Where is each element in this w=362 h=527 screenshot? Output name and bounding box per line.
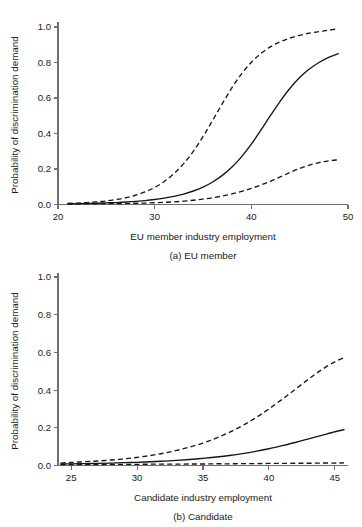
y-axis-tick-label: 0.2	[38, 422, 51, 433]
x-axis-tick-label: 30	[132, 472, 143, 483]
y-axis-tick-label: 0.0	[38, 460, 51, 471]
y-axis-tick-label: 0.2	[38, 163, 51, 174]
x-axis-tick-label: 40	[246, 211, 257, 222]
y-axis-tick-label: 0.6	[38, 92, 51, 103]
figure-footnote	[0, 513, 362, 527]
axis-spines	[58, 273, 348, 466]
x-axis-tick-label: 40	[264, 472, 275, 483]
y-axis-tick-label: 0.4	[38, 128, 52, 139]
x-axis-tick-label: 20	[53, 211, 64, 222]
y-axis-tick-label: 1.0	[38, 21, 51, 32]
confidence-bound-curve	[61, 358, 344, 463]
chart-panel-a: 0.00.20.40.60.81.020304050EU member indu…	[0, 0, 362, 264]
y-axis-tick-label: 0.8	[38, 57, 51, 68]
y-axis-tick-label: 0.4	[38, 385, 52, 396]
prediction-curve	[68, 54, 339, 204]
figure-container: 0.00.20.40.60.81.020304050EU member indu…	[0, 0, 362, 527]
panel-subcaption: (a) EU member	[170, 250, 238, 261]
x-axis-title: Candidate industry employment	[134, 492, 272, 503]
chart-panel-b: 0.00.20.40.60.81.02530354045Candidate in…	[0, 263, 362, 527]
x-axis-tick-label: 45	[329, 472, 340, 483]
y-axis-title: Probability of discrimination demand	[9, 36, 20, 193]
plot-area-b: 0.00.20.40.60.81.02530354045Candidate in…	[0, 263, 362, 527]
confidence-bound-curve	[68, 29, 339, 204]
x-axis-tick-label: 30	[149, 211, 160, 222]
y-axis-tick-label: 0.8	[38, 309, 51, 320]
prediction-curve	[61, 430, 344, 464]
axis-spines	[58, 22, 348, 205]
confidence-bound-curve	[68, 160, 339, 204]
x-axis-tick-label: 50	[343, 211, 354, 222]
y-axis-tick-label: 0.0	[38, 199, 51, 210]
x-axis-tick-label: 25	[66, 472, 77, 483]
y-axis-title: Probability of discrimination demand	[9, 292, 20, 449]
y-axis-tick-label: 0.6	[38, 347, 51, 358]
x-axis-tick-label: 35	[198, 472, 209, 483]
x-axis-title: EU member industry employment	[130, 231, 276, 242]
y-axis-tick-label: 1.0	[38, 271, 51, 282]
plot-area-a: 0.00.20.40.60.81.020304050EU member indu…	[0, 0, 362, 264]
